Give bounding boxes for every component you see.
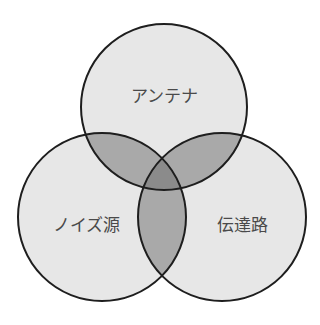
label-noise-source: ノイズ源 xyxy=(53,215,120,235)
venn-diagram: アンテナ ノイズ源 伝達路 xyxy=(0,0,320,325)
label-antenna: アンテナ xyxy=(131,86,198,106)
label-transmission-path: 伝達路 xyxy=(217,215,268,235)
